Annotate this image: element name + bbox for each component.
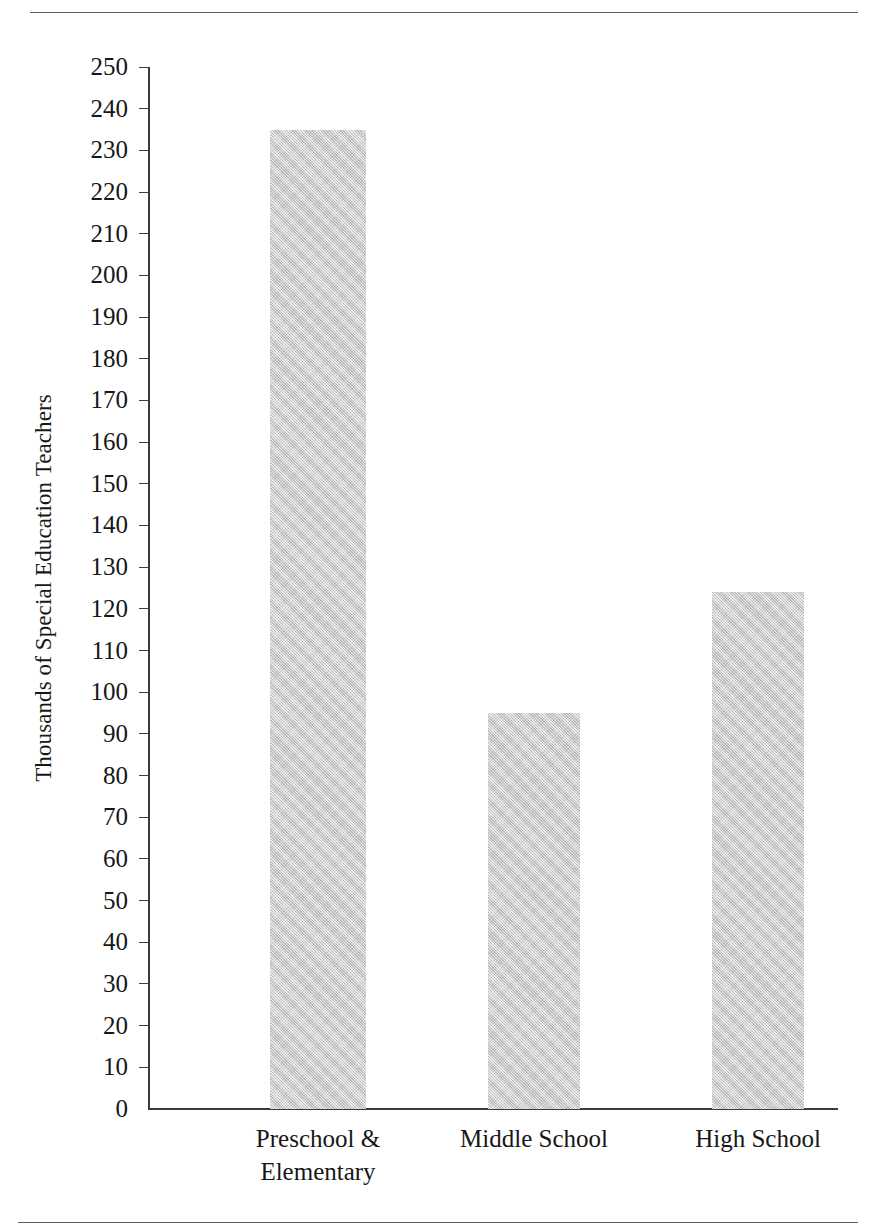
bar (270, 130, 366, 1109)
y-tick-mark (139, 108, 149, 109)
y-tick-label: 180 (72, 346, 128, 371)
y-tick-mark (139, 567, 149, 568)
y-tick-mark (139, 942, 149, 943)
x-axis-category-label: High School (676, 1122, 840, 1155)
y-tick-label: 190 (72, 304, 128, 329)
y-tick-label: 50 (72, 888, 128, 913)
y-tick-mark (139, 692, 149, 693)
y-tick-mark (139, 983, 149, 984)
y-tick-mark (139, 67, 149, 68)
y-tick-label: 30 (72, 971, 128, 996)
y-tick-mark (139, 733, 149, 734)
y-tick-label: 240 (72, 96, 128, 121)
y-tick-mark (139, 358, 149, 359)
y-tick-label: 20 (72, 1013, 128, 1038)
y-tick-label: 40 (72, 929, 128, 954)
bar-chart-figure: 0102030405060708090100110120130140150160… (0, 0, 883, 1232)
y-tick-label: 100 (72, 679, 128, 704)
y-tick-label: 230 (72, 137, 128, 162)
y-tick-mark (139, 650, 149, 651)
y-tick-mark (139, 233, 149, 234)
y-tick-mark (139, 317, 149, 318)
y-tick-mark (139, 442, 149, 443)
y-tick-label: 0 (72, 1096, 128, 1121)
y-tick-mark (139, 608, 149, 609)
y-tick-label: 90 (72, 721, 128, 746)
x-axis-category-label: Preschool & Elementary (238, 1122, 398, 1188)
y-tick-mark (139, 150, 149, 151)
y-tick-label: 220 (72, 179, 128, 204)
y-tick-label: 210 (72, 221, 128, 246)
y-tick-label: 60 (72, 846, 128, 871)
y-tick-mark (139, 858, 149, 859)
y-tick-label: 250 (72, 54, 128, 79)
y-tick-label: 150 (72, 471, 128, 496)
y-tick-mark (139, 192, 149, 193)
y-tick-mark (139, 775, 149, 776)
bar (488, 713, 580, 1109)
y-tick-mark (139, 1067, 149, 1068)
y-tick-mark (139, 483, 149, 484)
bar (712, 592, 804, 1109)
y-tick-label: 10 (72, 1054, 128, 1079)
y-tick-label: 80 (72, 763, 128, 788)
y-tick-label: 140 (72, 512, 128, 537)
y-tick-mark (139, 525, 149, 526)
y-tick-label: 200 (72, 262, 128, 287)
y-tick-mark (139, 900, 149, 901)
y-tick-label: 70 (72, 804, 128, 829)
y-tick-label: 120 (72, 596, 128, 621)
y-tick-label: 110 (72, 638, 128, 663)
y-tick-label: 170 (72, 387, 128, 412)
y-tick-mark (139, 275, 149, 276)
x-axis-category-label: Middle School (452, 1122, 616, 1155)
y-tick-label: 160 (72, 429, 128, 454)
y-axis-title: Thousands of Special Education Teachers (31, 394, 57, 782)
y-tick-mark (139, 400, 149, 401)
y-tick-mark (139, 1025, 149, 1026)
y-tick-mark (139, 817, 149, 818)
y-axis-line (148, 67, 150, 1110)
y-tick-label: 130 (72, 554, 128, 579)
